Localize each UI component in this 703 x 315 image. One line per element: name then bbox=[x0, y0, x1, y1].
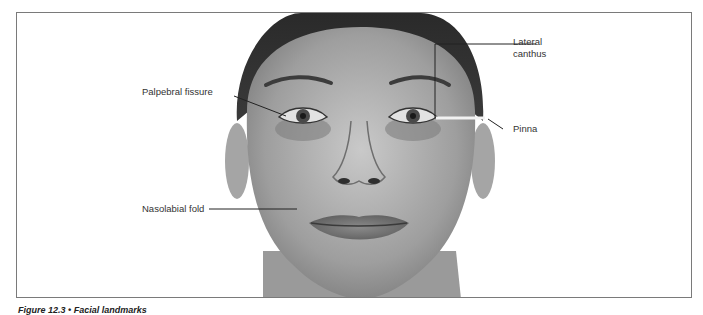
figure-frame bbox=[16, 12, 692, 298]
palpebral-fissure-leader bbox=[234, 96, 286, 116]
leader-lines bbox=[17, 13, 692, 298]
pinna-leader bbox=[488, 119, 503, 129]
label-pinna: Pinna bbox=[513, 123, 537, 135]
label-lateral-canthus-line1: Lateral bbox=[513, 36, 542, 48]
figure-caption: Figure 12.3 • Facial landmarks bbox=[18, 305, 147, 315]
label-nasolabial-fold: Nasolabial fold bbox=[142, 203, 204, 215]
label-palpebral-fissure: Palpebral fissure bbox=[142, 86, 213, 98]
label-lateral-canthus-line2: canthus bbox=[513, 48, 546, 60]
